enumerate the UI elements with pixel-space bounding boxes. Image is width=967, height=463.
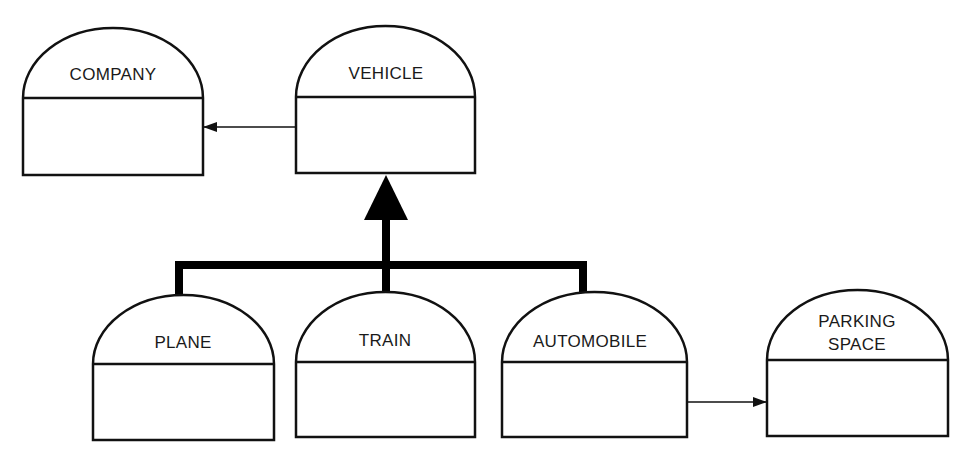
inheritance-triangle-icon (364, 175, 408, 220)
class-vehicle[interactable]: VEHICLE (296, 26, 475, 173)
inheritance-connector (179, 175, 583, 296)
class-plane-shape (93, 295, 274, 440)
class-train-shape (296, 292, 475, 437)
class-diagram: COMPANY VEHICLE PLANE TRAIN AUTOMOBILE P… (0, 0, 967, 463)
class-company[interactable]: COMPANY (23, 28, 203, 175)
class-plane[interactable]: PLANE (93, 295, 274, 440)
class-vehicle-shape (296, 26, 475, 173)
class-train-label: TRAIN (359, 331, 412, 350)
class-parking-space-label-line2: SPACE (828, 335, 886, 354)
class-train[interactable]: TRAIN (296, 292, 475, 437)
class-plane-label: PLANE (154, 333, 211, 352)
class-company-shape (23, 28, 203, 175)
class-automobile-shape (502, 292, 687, 437)
class-parking-space[interactable]: PARKING SPACE (767, 290, 948, 436)
class-automobile[interactable]: AUTOMOBILE (502, 292, 687, 437)
class-vehicle-label: VEHICLE (349, 64, 424, 83)
class-automobile-label: AUTOMOBILE (533, 332, 647, 351)
class-company-label: COMPANY (70, 65, 157, 84)
class-parking-space-label-line1: PARKING (818, 312, 895, 331)
